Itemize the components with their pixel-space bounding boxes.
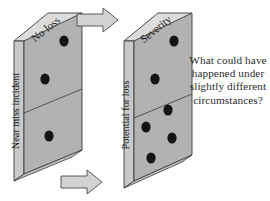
caption-line: happened under (188, 67, 268, 80)
right-block-dot (167, 132, 176, 143)
caption-line: circumstances? (188, 94, 268, 107)
top-arrow-shape (77, 8, 118, 32)
right-block-left-face-label: Potential for loss (120, 80, 131, 149)
caption-line: slightly different (188, 80, 268, 93)
caption-text: What could have happened under slightly … (188, 54, 268, 107)
right-block-dot (169, 35, 178, 46)
caption-line: What could have (188, 54, 268, 67)
right-block: Severity Potential for loss (120, 12, 192, 188)
diagram-canvas: No loss Near miss incident (0, 0, 270, 201)
bottom-arrow-shape (61, 170, 102, 194)
bottom-arrow (61, 170, 102, 194)
top-arrow (77, 8, 118, 32)
left-block-left-face-label: Near miss incident (10, 73, 21, 150)
right-block-dot (146, 152, 155, 163)
right-block-dot (141, 121, 150, 132)
right-block-dot (163, 104, 172, 115)
left-block: No loss Near miss incident (10, 13, 82, 181)
right-block-dot (150, 73, 159, 84)
left-block-dot (59, 35, 68, 46)
left-block-dot (40, 73, 49, 84)
left-block-dot (44, 130, 53, 141)
